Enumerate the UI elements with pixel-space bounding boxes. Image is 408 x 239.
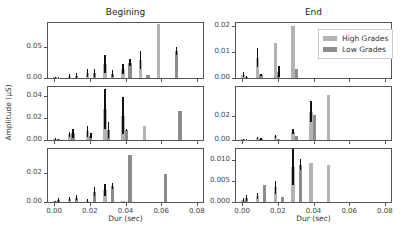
error-bar xyxy=(69,197,70,201)
error-bar xyxy=(243,72,244,77)
bar-high-grades xyxy=(309,163,312,202)
y-tick-label: 0.005 xyxy=(200,177,230,184)
x-tick-mark xyxy=(126,141,127,144)
x-tick-mark xyxy=(278,141,279,144)
error-bar xyxy=(108,122,109,137)
y-tick-mark xyxy=(44,78,47,79)
bar-low-grades xyxy=(263,185,266,202)
bar-low-grades xyxy=(313,115,316,140)
x-tick-mark xyxy=(54,79,55,82)
x-tick-mark xyxy=(197,203,198,206)
x-tick-mark xyxy=(90,203,91,206)
error-bar xyxy=(76,195,77,199)
error-bar xyxy=(257,48,258,67)
y-tick-label: 0.02 xyxy=(200,22,230,29)
error-bar xyxy=(104,184,105,196)
error-bar xyxy=(58,139,59,140)
x-tick-mark xyxy=(242,203,243,206)
error-bar xyxy=(246,76,247,78)
error-bar xyxy=(112,70,113,77)
y-tick-mark xyxy=(44,96,47,97)
x-tick-mark xyxy=(278,203,279,206)
bar-low-grades xyxy=(125,130,128,140)
bar-low-grades xyxy=(178,111,181,140)
bar-low-grades xyxy=(164,174,167,202)
y-tick-label: 0.04 xyxy=(12,92,42,99)
y-tick-label: 0.00 xyxy=(12,136,42,143)
error-bar xyxy=(94,69,95,76)
error-bar xyxy=(112,183,113,189)
error-bar xyxy=(246,139,247,140)
error-bar xyxy=(275,181,276,194)
error-bar xyxy=(76,73,77,78)
x-tick-label: 0.00 xyxy=(229,207,255,215)
x-tick-mark xyxy=(161,79,162,82)
x-axis-label: Dur (sec) xyxy=(86,214,166,223)
error-bar xyxy=(122,97,123,135)
x-tick-mark xyxy=(242,79,243,82)
y-tick-mark xyxy=(232,116,235,117)
error-bar xyxy=(72,129,73,138)
legend-swatch-icon xyxy=(323,47,337,52)
y-tick-label: 0.00 xyxy=(200,74,230,81)
bar-low-grades xyxy=(295,69,298,78)
y-tick-mark xyxy=(232,181,235,182)
x-tick-mark xyxy=(349,79,350,82)
x-tick-mark xyxy=(126,203,127,206)
y-tick-mark xyxy=(44,140,47,141)
bar-high-grades xyxy=(327,95,330,140)
y-tick-mark xyxy=(44,173,47,174)
x-tick-mark xyxy=(385,141,386,144)
error-bar xyxy=(104,89,105,129)
bar-low-grades xyxy=(281,197,284,203)
error-bar xyxy=(87,69,88,78)
error-bar xyxy=(310,101,311,122)
x-tick-mark xyxy=(90,141,91,144)
bar-high-grades xyxy=(121,201,124,202)
y-tick-label: 0.00 xyxy=(12,74,42,81)
y-tick-label: 0.05 xyxy=(12,43,42,50)
bar-high-grades xyxy=(157,24,160,78)
x-tick-mark xyxy=(54,141,55,144)
legend-entry: Low Grades xyxy=(323,44,388,55)
error-bar xyxy=(87,199,88,202)
legend-swatch-icon xyxy=(323,36,337,41)
error-bar xyxy=(104,55,105,72)
x-tick-mark xyxy=(242,141,243,144)
subplot-panel xyxy=(47,22,204,79)
bar-low-grades xyxy=(146,75,149,78)
y-tick-label: 0.02 xyxy=(12,114,42,121)
y-tick-mark xyxy=(44,118,47,119)
legend-label: Low Grades xyxy=(342,45,386,54)
y-tick-mark xyxy=(232,78,235,79)
error-bar xyxy=(69,74,70,78)
x-tick-mark xyxy=(349,203,350,206)
error-bar xyxy=(58,198,59,202)
error-bar xyxy=(87,126,88,137)
error-bar xyxy=(58,77,59,78)
y-tick-mark xyxy=(44,202,47,203)
error-bar xyxy=(257,137,258,139)
bar-low-grades xyxy=(128,155,131,202)
column-title: End xyxy=(234,7,394,17)
y-tick-label: 0.010 xyxy=(200,156,230,163)
x-tick-mark xyxy=(314,141,315,144)
error-bar xyxy=(278,66,279,76)
y-tick-label: 0.02 xyxy=(200,112,230,119)
y-tick-label: 0.00 xyxy=(12,198,42,205)
x-tick-label: 0.00 xyxy=(41,207,67,215)
x-tick-label: 0.08 xyxy=(184,207,210,215)
x-axis-label: Dur (sec) xyxy=(274,214,354,223)
bar-low-grades xyxy=(299,165,302,202)
x-tick-mark xyxy=(126,79,127,82)
y-tick-label: 0.000 xyxy=(200,198,230,205)
error-bar xyxy=(243,198,244,201)
bar-high-grades xyxy=(327,165,330,202)
y-tick-label: 0.01 xyxy=(200,48,230,55)
error-bar xyxy=(275,135,276,139)
subplot-panel xyxy=(235,86,392,141)
error-bar xyxy=(94,187,95,196)
error-bar xyxy=(260,138,261,140)
x-tick-mark xyxy=(161,203,162,206)
y-axis-label: Amplitude (µS) xyxy=(4,73,13,153)
